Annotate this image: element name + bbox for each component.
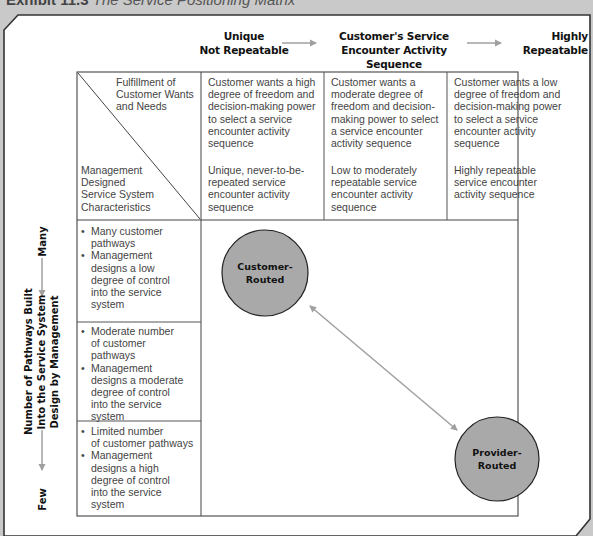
corner-wants-label: Fulfillment of Customer Wants and Needs [116, 76, 202, 113]
row-2-characteristics: Moderate number of customer pathways Man… [81, 325, 201, 423]
column-3-wants: Customer wants a low degree of freedom a… [454, 76, 572, 149]
provider-routed-label: Provider- Routed [457, 446, 537, 472]
row-1-bullet-2: Management designs a low degree of contr… [81, 249, 201, 310]
row-3-bullet-2: Management designs a high degree of cont… [81, 449, 205, 510]
top-axis-left-label: Unique Not Repeatable [196, 29, 292, 57]
row-1-characteristics: Many customer pathways Management design… [81, 225, 201, 310]
left-axis-many-label: Many [36, 222, 49, 262]
row-3-bullet-1: Limited number of customer pathways [81, 425, 205, 449]
column-2-wants: Customer wants a moderate degree of free… [331, 76, 449, 149]
corner-characteristics-label: Management Designed Service System Chara… [81, 164, 181, 213]
row-1-bullet-1: Many customer pathways [81, 225, 201, 249]
left-axis-few-label: Few [36, 480, 49, 520]
top-axis-title: Customer's Service Encounter Activity Se… [318, 29, 470, 71]
column-3-characteristics: Highly repeatable service encounter acti… [454, 164, 572, 201]
left-axis-title: Number of Pathways Built Into the Servic… [22, 289, 64, 435]
top-axis-right-label: Highly Repeatable [508, 29, 588, 57]
column-1-wants: Customer wants a high degree of freedom … [208, 76, 326, 149]
column-2-characteristics: Low to moderately repeatable service enc… [331, 164, 449, 213]
row-2-bullet-1: Moderate number of customer pathways [81, 325, 201, 362]
customer-routed-label: Customer- Routed [225, 260, 305, 286]
row-3-characteristics: Limited number of customer pathways Mana… [81, 425, 205, 510]
row-2-bullet-2: Management designs a moderate degree of … [81, 362, 201, 423]
column-1-characteristics: Unique, never-to-be- repeated service en… [208, 164, 326, 213]
